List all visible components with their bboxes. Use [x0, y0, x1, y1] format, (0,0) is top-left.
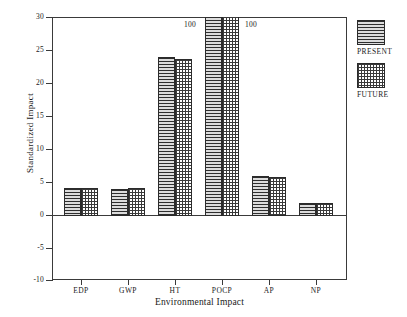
y-tick-mark	[46, 149, 53, 150]
y-axis-title: Standardized Impact	[25, 58, 35, 208]
y-tick-label: 20	[36, 79, 44, 87]
x-tick-mark	[81, 280, 82, 285]
y-tick-mark	[46, 280, 53, 281]
bar-present-pocp	[205, 17, 222, 216]
bar-future-gwp	[128, 188, 145, 216]
y-tick-label: 25	[36, 46, 44, 54]
bar-present-edp	[64, 188, 81, 216]
y-tick-mark	[46, 83, 53, 84]
y-tick-mark	[46, 116, 53, 117]
bar-future-np	[316, 203, 333, 216]
x-tick-mark	[128, 280, 129, 285]
x-tick-mark	[269, 280, 270, 285]
bar-value-annotation-pocp-future: 100	[245, 20, 257, 29]
bar-future-pocp	[222, 17, 239, 216]
bar-future-edp	[81, 188, 98, 216]
bar-future-ap	[269, 177, 286, 216]
legend-label-future: FUTURE	[357, 90, 405, 99]
x-axis-title: Environmental Impact	[52, 297, 347, 307]
y-tick-label: 15	[36, 112, 44, 120]
x-tick-mark	[316, 280, 317, 285]
bar-value-annotation-pocp-present: 100	[184, 20, 196, 29]
x-tick-mark	[222, 280, 223, 285]
y-tick-label: -10	[33, 276, 44, 284]
y-tick-mark	[46, 17, 53, 18]
bar-future-ht	[175, 59, 192, 216]
bar-present-np	[299, 203, 316, 216]
legend-swatch-future	[357, 63, 385, 88]
y-tick-mark	[46, 182, 53, 183]
y-tick-mark	[46, 50, 53, 51]
y-tick-mark	[46, 248, 53, 249]
y-tick-label: 0	[40, 211, 44, 219]
bar-present-gwp	[111, 189, 128, 216]
bar-chart: 30 25 20 15 10 5 0 -5 -10 Standardized I…	[0, 0, 407, 317]
y-tick-label: 30	[36, 13, 44, 21]
x-tick-label-np: NP	[286, 286, 346, 295]
y-tick-label: -5	[37, 244, 44, 252]
y-tick-label: 10	[36, 145, 44, 153]
legend-label-present: PRESENT	[357, 47, 405, 56]
chart-legend: PRESENT FUTURE	[357, 20, 405, 106]
y-tick-label: 5	[40, 178, 44, 186]
bar-present-ap	[252, 176, 269, 216]
legend-swatch-present	[357, 20, 385, 45]
x-tick-mark	[175, 280, 176, 285]
plot-area	[52, 17, 347, 280]
bar-present-ht	[158, 57, 175, 216]
